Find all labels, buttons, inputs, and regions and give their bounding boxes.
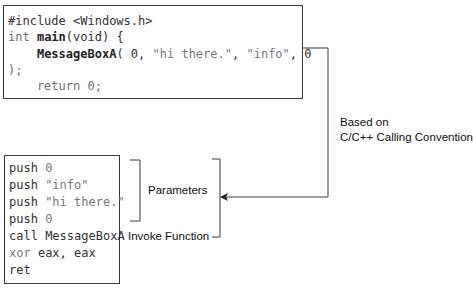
main-params: (void) { [66, 30, 124, 44]
c-line-close: ); [8, 62, 22, 78]
close-paren: ); [8, 63, 22, 77]
asm-line: push "info" [9, 177, 89, 193]
convention-label-line1: Based on [340, 116, 389, 128]
c-source-box: #include <Windows.h> int main(void) { Me… [3, 5, 303, 99]
parameters-label: Parameters [148, 184, 207, 196]
asm-op: xor [9, 246, 31, 260]
asm-op: push [9, 178, 38, 192]
asm-arg: "hi there." [45, 195, 124, 209]
asm-arg: MessageBoxA [45, 229, 124, 243]
asm-arg: 0 [45, 212, 52, 226]
asm-op: call [9, 229, 38, 243]
asm-box: push 0 push "info" push "hi there." push… [4, 155, 120, 284]
arg-0: ( 0, [116, 47, 152, 61]
c-line-include: #include <Windows.h> [8, 13, 153, 29]
asm-op: push [9, 161, 38, 175]
asm-line: push 0 [9, 211, 52, 227]
asm-line: push "hi there." [9, 194, 125, 210]
asm-line: call MessageBoxA [9, 228, 125, 244]
asm-arg: 0 [45, 161, 52, 175]
asm-line: push 0 [9, 160, 52, 176]
int-keyword: int [8, 30, 37, 44]
asm-op: ret [9, 263, 31, 277]
arg-hi-there: "hi there." [153, 47, 232, 61]
main-func: main [37, 30, 66, 44]
arg-info: "info" [246, 47, 289, 61]
messageboxa-func: MessageBoxA [37, 47, 116, 61]
return-stmt: return 0; [8, 79, 102, 93]
include-text: #include <Windows.h> [8, 14, 153, 28]
asm-arg: "info" [45, 178, 88, 192]
c-line-return: return 0; [8, 78, 102, 94]
c-line-messagebox: MessageBoxA( 0, "hi there.", "info", 0 [8, 46, 312, 62]
asm-op: push [9, 195, 38, 209]
indent [8, 47, 37, 61]
comma: , [232, 47, 246, 61]
asm-line: ret [9, 262, 31, 278]
convention-label-line2: C/C++ Calling Convention [340, 131, 473, 143]
asm-line: xor eax, eax [9, 245, 96, 261]
asm-op: push [9, 212, 38, 226]
invoke-function-label: Invoke Function [128, 230, 209, 242]
c-line-main: int main(void) { [8, 29, 124, 45]
arg-last-0: , 0 [290, 47, 312, 61]
asm-arg: eax, eax [38, 246, 96, 260]
